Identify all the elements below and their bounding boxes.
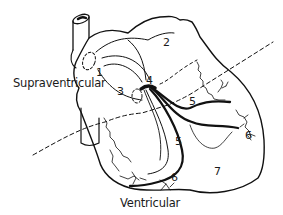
label-5-right-bundle: 5: [175, 136, 182, 147]
supraventricular-label: Supraventricular: [13, 76, 106, 90]
ventricular-label: Ventricular: [120, 196, 180, 210]
label-6-purkinje-bottom: 6: [171, 172, 178, 183]
label-1-sa-node: 1: [96, 67, 103, 78]
label-2-internodal: 2: [163, 37, 170, 48]
label-7-ventricular-myocardium: 7: [214, 166, 221, 177]
label-6-purkinje-right: 6: [245, 130, 252, 141]
heart-illustration: [0, 0, 283, 215]
label-5-left-bundle: 5: [189, 96, 196, 107]
label-3-av-node: 3: [117, 86, 124, 97]
label-4-bundle-of-his: 4: [146, 75, 153, 86]
divider-dashed-line: [33, 42, 273, 155]
superior-vena-cava: [73, 17, 89, 50]
heart-diagram: Supraventricular Ventricular 1 2 3 4 5 5…: [0, 0, 283, 215]
